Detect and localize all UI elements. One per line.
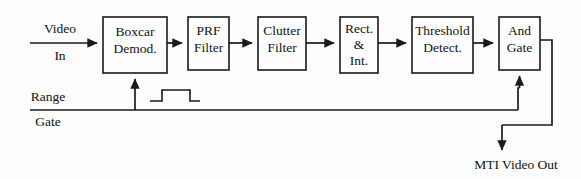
- label-range-gate-bottom: Gate: [35, 114, 60, 129]
- block-and-gate-line-1: And: [508, 23, 531, 38]
- block-and-gate-line-2: Gate: [507, 40, 532, 55]
- block-boxcar-demod-line-1: Boxcar: [116, 24, 155, 39]
- label-video-in-top: Video: [44, 21, 76, 36]
- block-boxcar-demod-line-2: Demod.: [113, 41, 156, 56]
- label-video-in-bottom: In: [54, 48, 65, 63]
- mti-block-diagram: Video In Boxcar Demod. PRF Filter Clutte…: [0, 0, 581, 179]
- gate-pulse-waveform-icon: [150, 90, 200, 101]
- label-range-gate-top: Range: [31, 89, 66, 104]
- block-clutter-filter-line-1: Clutter: [263, 23, 301, 38]
- block-prf-filter-line-2: Filter: [194, 40, 224, 55]
- block-rect-int-line-3: Int.: [350, 53, 368, 68]
- block-clutter-filter-line-2: Filter: [267, 40, 297, 55]
- block-rect-int-line-2: &: [354, 37, 365, 52]
- wire-range-gate-corner: [518, 88, 520, 110]
- label-mti-video-out: MTI Video Out: [474, 157, 558, 172]
- block-rect-int-line-1: Rect.: [345, 21, 373, 36]
- block-threshold-detect-line-1: Threshold: [415, 23, 470, 38]
- block-threshold-detect-line-2: Detect.: [423, 40, 462, 55]
- block-prf-filter-line-1: PRF: [196, 23, 221, 38]
- diagram-canvas: Video In Boxcar Demod. PRF Filter Clutte…: [0, 0, 581, 179]
